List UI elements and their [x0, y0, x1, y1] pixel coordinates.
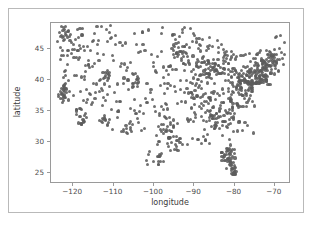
x-tick-label: −100: [143, 187, 163, 196]
scatter-point: [231, 102, 234, 105]
scatter-point: [172, 126, 175, 129]
scatter-point: [210, 125, 213, 128]
scatter-point: [214, 125, 217, 128]
scatter-point: [261, 74, 264, 77]
scatter-point: [56, 40, 59, 43]
scatter-point: [172, 118, 175, 121]
scatter-point: [137, 121, 140, 124]
scatter-point: [92, 39, 95, 42]
scatter-point: [203, 100, 206, 103]
scatter-point: [236, 129, 239, 132]
scatter-point: [170, 141, 173, 144]
scatter-point: [248, 97, 251, 100]
scatter-point: [251, 100, 254, 103]
scatter-point: [254, 57, 257, 60]
scatter-point: [225, 167, 228, 170]
scatter-point: [223, 72, 226, 75]
x-tick-label: −70: [266, 187, 281, 196]
scatter-point: [169, 149, 172, 152]
scatter-point: [106, 93, 109, 96]
scatter-point: [264, 69, 267, 72]
scatter-point: [202, 104, 205, 107]
scatter-point: [110, 108, 113, 111]
scatter-point: [237, 73, 240, 76]
scatter-point: [268, 83, 271, 86]
scatter-point: [108, 31, 111, 34]
scatter-point: [128, 122, 131, 125]
scatter-point: [166, 87, 169, 90]
scatter-point: [258, 51, 261, 54]
scatter-point: [194, 113, 197, 116]
scatter-point: [218, 127, 221, 130]
scatter-point: [199, 65, 202, 68]
scatter-point: [135, 112, 138, 115]
scatter-point: [278, 47, 281, 50]
figure-canvas: −120−110−100−90−80−70 2530354045 longitu…: [0, 0, 313, 225]
scatter-point: [281, 57, 284, 60]
scatter-point: [182, 50, 185, 53]
x-tick-mark: [113, 183, 114, 186]
scatter-point: [147, 28, 150, 31]
scatter-point: [185, 79, 188, 82]
scatter-point: [82, 45, 85, 48]
scatter-point: [248, 52, 251, 55]
scatter-point: [172, 33, 175, 36]
scatter-point: [119, 65, 122, 68]
scatter-point: [217, 46, 220, 49]
y-tick-label: 45: [35, 44, 44, 53]
scatter-point: [253, 71, 256, 74]
scatter-point: [186, 143, 189, 146]
scatter-point: [124, 41, 127, 44]
scatter-point: [97, 59, 100, 62]
scatter-point: [222, 62, 225, 65]
scatter-point: [133, 32, 136, 35]
scatter-point: [185, 52, 188, 55]
scatter-point: [233, 112, 236, 115]
y-tick-label: 40: [35, 74, 44, 83]
scatter-point: [132, 82, 135, 85]
scatter-point: [212, 66, 215, 69]
scatter-point: [211, 117, 214, 120]
scatter-point: [100, 25, 103, 28]
scatter-point: [206, 59, 209, 62]
scatter-point: [108, 118, 111, 121]
y-tick-mark: [47, 110, 50, 111]
scatter-point: [129, 107, 132, 110]
scatter-point: [186, 117, 189, 120]
scatter-point: [68, 90, 71, 93]
scatter-point: [149, 88, 152, 91]
scatter-point: [96, 52, 99, 55]
scatter-point: [114, 43, 117, 46]
scatter-point: [253, 104, 256, 107]
scatter-point: [149, 91, 152, 94]
scatter-point: [174, 90, 177, 93]
scatter-point: [109, 24, 112, 27]
y-axis-label: latitude: [13, 87, 22, 118]
scatter-point: [228, 138, 231, 141]
scatter-point: [153, 105, 156, 108]
scatter-point: [189, 27, 192, 30]
scatter-point: [233, 156, 236, 159]
scatter-point: [273, 72, 276, 75]
scatter-point: [109, 37, 112, 40]
scatter-point: [222, 92, 225, 95]
scatter-point: [270, 68, 273, 71]
scatter-point: [167, 145, 170, 148]
scatter-point: [229, 143, 232, 146]
scatter-point: [277, 70, 280, 73]
scatter-point: [191, 40, 194, 43]
scatter-point: [152, 160, 155, 163]
scatter-point: [122, 82, 125, 85]
scatter-point: [191, 137, 194, 140]
scatter-point: [123, 62, 126, 65]
scatter-point: [131, 123, 134, 126]
scatter-point: [59, 97, 62, 100]
scatter-point: [233, 173, 236, 176]
scatter-point: [279, 34, 282, 37]
scatter-point: [72, 43, 75, 46]
scatter-point: [93, 97, 96, 100]
scatter-point: [136, 85, 139, 88]
scatter-point: [118, 41, 121, 44]
scatter-point: [266, 75, 269, 78]
scatter-point: [269, 71, 272, 74]
